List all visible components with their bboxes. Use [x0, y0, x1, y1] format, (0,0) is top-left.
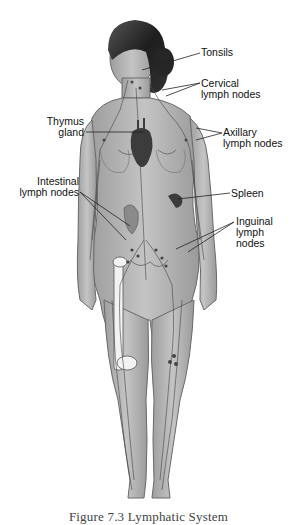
label-thymus-line2: gland: [40, 127, 84, 138]
label-axillary-line2: lymph nodes: [223, 138, 283, 149]
label-spleen: Spleen: [231, 188, 264, 199]
label-tonsils: Tonsils: [201, 47, 233, 58]
figure-caption: Figure 7.3 Lymphatic System: [0, 509, 297, 525]
label-inguinal-line3: nodes: [236, 238, 265, 249]
label-cervical-line2: lymph nodes: [201, 89, 261, 100]
body-silhouette: [77, 29, 216, 498]
label-intestinal-line2: lymph nodes: [10, 187, 79, 198]
